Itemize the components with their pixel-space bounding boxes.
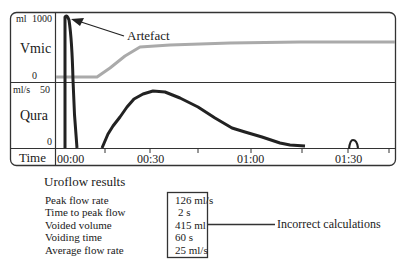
qura-unit-label: ml/s — [13, 85, 30, 95]
result-value: 60 s — [175, 232, 193, 243]
vmic-max-label: 1000 — [32, 14, 52, 24]
artefact-annotation: Artefact — [127, 29, 170, 42]
vmic-min-label: 0 — [32, 71, 37, 81]
qura-small-peak — [349, 140, 358, 149]
result-value: 126 ml/s — [175, 195, 213, 206]
vmic-curve — [56, 42, 395, 77]
vmic-unit-label: ml — [16, 14, 27, 24]
result-label: Average flow rate — [45, 245, 124, 256]
result-label: Voiding time — [45, 232, 102, 243]
qura-min-label: 0 — [47, 137, 52, 147]
result-value: 2 s — [178, 207, 191, 218]
result-label: Time to peak flow — [45, 207, 126, 218]
qura-curve — [102, 91, 305, 148]
result-label: Voided volume — [45, 220, 112, 231]
qura-name-label: Qura — [20, 109, 48, 123]
time-axis-label: Time — [19, 151, 46, 164]
result-label: Peak flow rate — [45, 195, 109, 206]
result-value: 25 ml/s — [175, 245, 208, 256]
chart-frame — [11, 13, 396, 166]
time-tick-label: 00:00 — [57, 153, 84, 165]
results-title: Uroflow results — [44, 175, 125, 188]
artefact-arrow-line — [78, 21, 124, 36]
result-value: 415 ml — [175, 220, 206, 231]
time-tick-label: 00:30 — [137, 153, 164, 165]
callout-label: Incorrect calculations — [277, 218, 381, 230]
qura-max-label: 50 — [40, 85, 50, 95]
vmic-name-label: Vmic — [20, 42, 51, 56]
time-tick-label: 01:30 — [335, 153, 362, 165]
time-tick-label: 01:00 — [237, 153, 264, 165]
